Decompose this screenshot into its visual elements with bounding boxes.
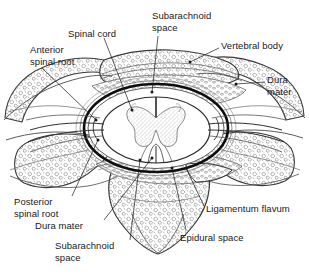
label-epidural-space: Epidural space bbox=[180, 232, 244, 244]
anatomical-figure: Subarachnoid space Spinal cord Vertebral… bbox=[0, 0, 309, 274]
label-spinal-cord: Spinal cord bbox=[68, 28, 116, 40]
label-vertebral-body: Vertebral body bbox=[221, 40, 283, 52]
label-dura-mater-bottom: Dura mater bbox=[35, 220, 83, 232]
label-posterior-spinal-root: Posterior spinal root bbox=[14, 196, 58, 219]
label-dura-mater-right: Dura mater bbox=[267, 74, 292, 97]
label-anterior-spinal-root: Anterior spinal root bbox=[30, 44, 74, 67]
label-subarachnoid-space-top: Subarachnoid space bbox=[152, 10, 211, 33]
spinal-cord bbox=[102, 97, 210, 163]
label-ligamentum-flavum: Ligamentum flavum bbox=[206, 203, 290, 215]
label-subarachnoid-space-bottom: Subarachnoid space bbox=[55, 240, 114, 263]
